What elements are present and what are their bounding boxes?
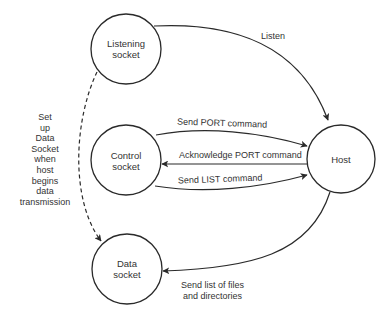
setup-data-label-line: when [20,154,71,165]
listen-label: Listen [261,31,285,42]
control-socket-label: Control socket [111,150,142,172]
data-socket-label-line2: socket [113,269,140,280]
control-socket-label-line2: socket [111,161,142,172]
send-files-label-line2: and directories [181,291,244,302]
ack-port-label: Acknowledge PORT command [179,150,302,161]
send-files-label-line1: Send list of files [181,280,244,291]
setup-data-label-line: host [20,165,71,176]
setup-data-label: Set up Data Socket when host begins data… [20,112,71,207]
setup-data-label-line: data [20,186,71,197]
control-socket-label-line1: Control [111,150,142,161]
listen-edge [154,26,328,120]
setup-data-label-line: Socket [20,144,71,155]
send-files-edge [163,192,330,271]
setup-data-label-line: transmission [20,197,71,208]
setup-data-label-line: up [20,123,71,134]
setup-data-label-line: Set [20,112,71,123]
data-socket-label-line1: Data [113,258,140,269]
send-port-edge [156,131,307,146]
listening-socket-label-line2: socket [107,49,145,60]
send-files-label: Send list of files and directories [181,280,244,302]
listening-socket-label-line1: Listening [107,38,145,49]
setup-data-label-line: Data [20,133,71,144]
data-socket-label: Data socket [113,258,140,280]
listening-socket-label: Listening socket [107,38,145,60]
host-label: Host [331,154,351,165]
setup-data-label-line: begins [20,176,71,187]
